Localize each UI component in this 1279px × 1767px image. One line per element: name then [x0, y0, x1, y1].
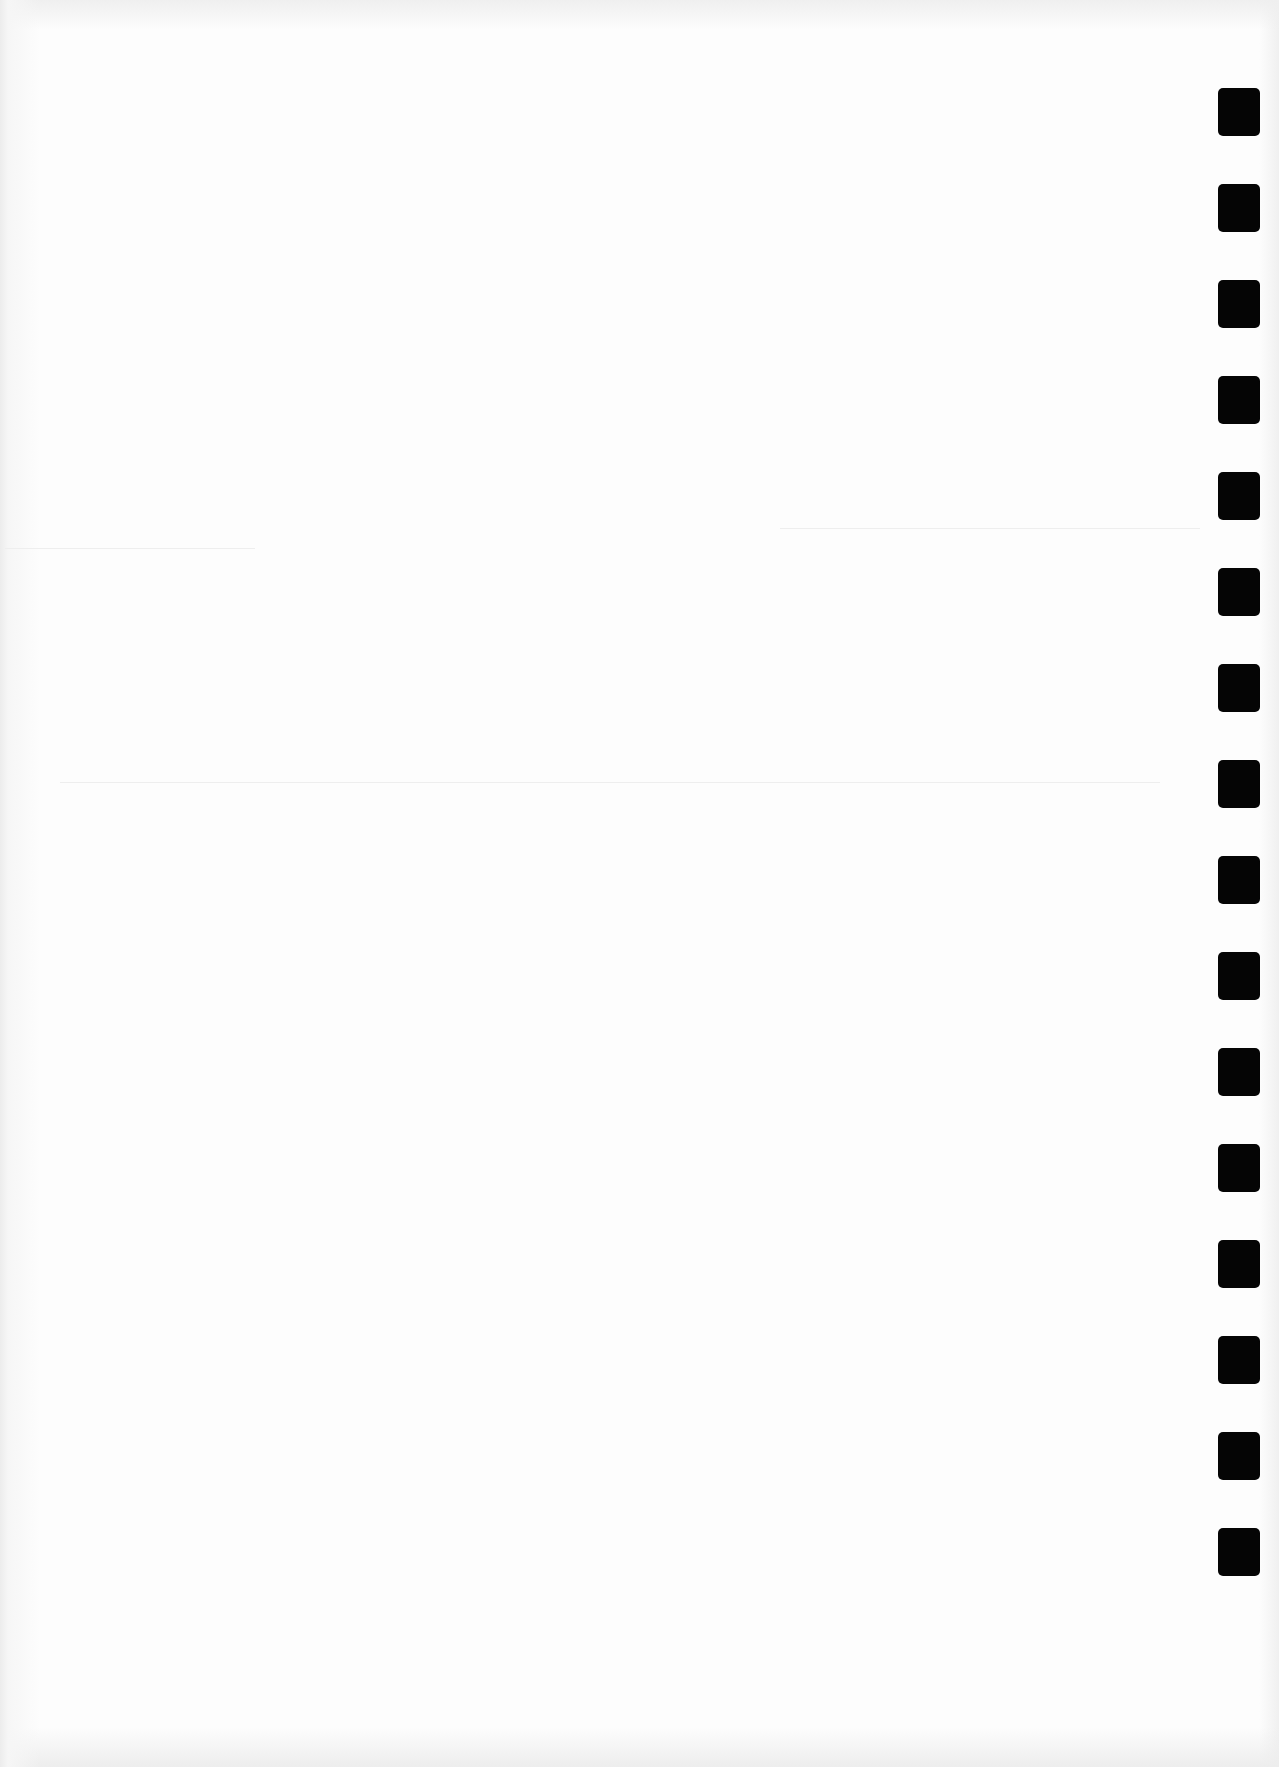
bleed-through-line — [780, 528, 1200, 529]
punch-hole — [1218, 1432, 1260, 1480]
bleed-through-line — [60, 782, 1160, 783]
punch-hole — [1218, 280, 1260, 328]
punch-hole — [1218, 88, 1260, 136]
punch-hole — [1218, 664, 1260, 712]
punch-hole — [1218, 1240, 1260, 1288]
punch-hole — [1218, 1336, 1260, 1384]
punch-hole — [1218, 1048, 1260, 1096]
punch-hole — [1218, 184, 1260, 232]
punch-hole — [1218, 1528, 1260, 1576]
punch-hole — [1218, 1144, 1260, 1192]
punch-hole — [1218, 952, 1260, 1000]
punch-hole — [1218, 472, 1260, 520]
bleed-through-line — [5, 548, 255, 549]
punch-hole-column — [1218, 0, 1262, 1767]
punch-hole — [1218, 376, 1260, 424]
punch-hole — [1218, 760, 1260, 808]
punch-hole — [1218, 856, 1260, 904]
punch-hole — [1218, 568, 1260, 616]
scanned-page — [0, 0, 1279, 1767]
